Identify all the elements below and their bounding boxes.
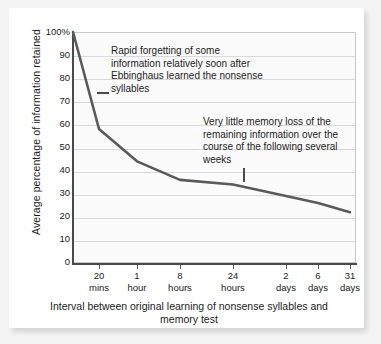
annotation-rapid-forgetting: Rapid forgetting of some information rel… bbox=[111, 45, 271, 96]
x-tick-label-31-days: 31 days bbox=[326, 270, 374, 293]
x-tick-label-24-hours: 24 hours bbox=[209, 270, 257, 293]
x-tick-label-1-hour-line1: 1 bbox=[113, 270, 161, 282]
figure-root: 100% 90 80 70 60 50 40 30 20 10 0 20 min… bbox=[0, 0, 381, 344]
x-tick-label-24-hours-line1: 24 bbox=[209, 270, 257, 282]
x-tick-label-1-hour-line2: hour bbox=[113, 282, 161, 294]
x-tick-mark-8-hours bbox=[180, 265, 181, 269]
x-tick-mark-6-days bbox=[318, 265, 319, 269]
gridline-20 bbox=[74, 218, 355, 219]
gridline-70 bbox=[74, 102, 355, 103]
y-tick-0: 0 bbox=[32, 257, 70, 267]
annotation-little-loss-leader-line bbox=[243, 168, 245, 182]
x-tick-mark-1-hour bbox=[137, 265, 138, 269]
x-tick-label-31-days-line1: 31 bbox=[326, 270, 374, 282]
gridline-10 bbox=[74, 241, 355, 242]
x-tick-label-31-days-line2: days bbox=[326, 282, 374, 294]
x-tick-mark-20-mins bbox=[99, 265, 100, 269]
x-tick-label-1-hour: 1 hour bbox=[113, 270, 161, 293]
x-tick-mark-2-days bbox=[286, 265, 287, 269]
x-axis-title: Interval between original learning of no… bbox=[39, 300, 339, 326]
x-tick-label-8-hours: 8 hours bbox=[156, 270, 204, 293]
y-axis-spine bbox=[72, 31, 74, 265]
annotation-rapid-forgetting-leader-line bbox=[97, 92, 109, 94]
x-tick-mark-31-days bbox=[350, 265, 351, 269]
x-tick-label-8-hours-line2: hours bbox=[156, 282, 204, 294]
y-axis-title: Average percentage of information retain… bbox=[30, 27, 42, 237]
x-tick-label-24-hours-line2: hours bbox=[209, 282, 257, 294]
annotation-little-loss: Very little memory loss of the remaining… bbox=[203, 116, 368, 167]
gridline-30 bbox=[74, 195, 355, 196]
gridline-40 bbox=[74, 172, 355, 173]
x-axis-spine bbox=[72, 263, 357, 265]
x-tick-label-8-hours-line1: 8 bbox=[156, 270, 204, 282]
x-tick-mark-24-hours bbox=[233, 265, 234, 269]
chart-page-card: 100% 90 80 70 60 50 40 30 20 10 0 20 min… bbox=[9, 8, 364, 328]
